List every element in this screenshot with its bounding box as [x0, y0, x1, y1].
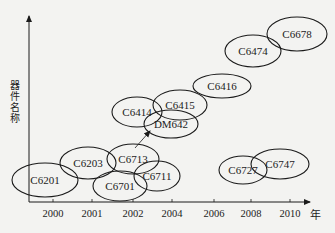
x-tick-label: 2008: [241, 208, 262, 219]
node-label: C6678: [282, 28, 312, 40]
node-c6701: C6701: [93, 171, 147, 201]
dsp-timeline-diagram: 2000200120022004200620082010 C6201C6203C…: [0, 0, 335, 233]
node-label: C6203: [73, 157, 103, 169]
x-tick-label: 2000: [43, 208, 64, 219]
node-label: C6711: [143, 170, 172, 182]
node-c6416: C6416: [193, 74, 251, 98]
node-label: C6747: [265, 158, 295, 170]
x-tick-label: 2006: [204, 208, 225, 219]
node-c6415: C6415: [153, 90, 207, 120]
node-label: C6201: [30, 174, 59, 186]
node-label: DM642: [154, 118, 188, 130]
y-axis-label: 器件名称: [7, 80, 19, 124]
x-tick-label: 2010: [280, 208, 301, 219]
node-c6747: C6747: [251, 149, 309, 179]
node-label: C6474: [238, 45, 268, 57]
node-c6474: C6474: [225, 35, 281, 67]
x-tick-label: 2002: [123, 208, 144, 219]
node-c6727: C6727: [219, 156, 267, 184]
node-label: C6701: [105, 180, 134, 192]
x-tick-label: 2001: [82, 208, 103, 219]
diagram-canvas: 2000200120022004200620082010 C6201C6203C…: [0, 0, 335, 233]
node-c6201: C6201: [12, 163, 78, 197]
x-tick-label: 2004: [162, 208, 184, 219]
node-label: C6416: [207, 80, 237, 92]
node-c6678: C6678: [267, 17, 327, 51]
x-axis-unit: 年: [310, 206, 321, 222]
node-label: C6415: [165, 99, 195, 111]
nodes: C6201C6203C6713C6701C6711C6414C6415DM642…: [12, 17, 327, 201]
